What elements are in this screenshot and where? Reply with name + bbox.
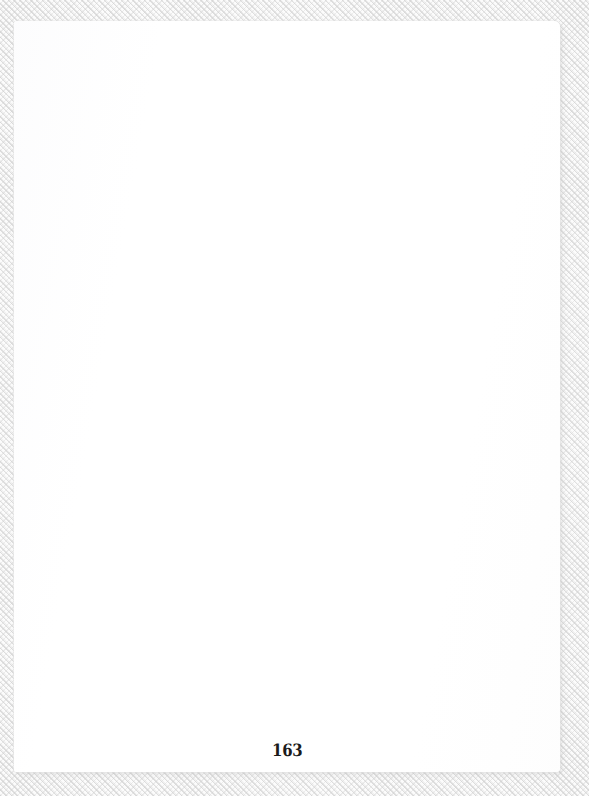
scan-canvas: 163 — [0, 0, 589, 796]
page-number: 163 — [272, 743, 302, 760]
page-footer: 163 — [14, 738, 560, 764]
page-sheet: 163 — [14, 21, 560, 772]
page-body-text — [72, 83, 504, 702]
